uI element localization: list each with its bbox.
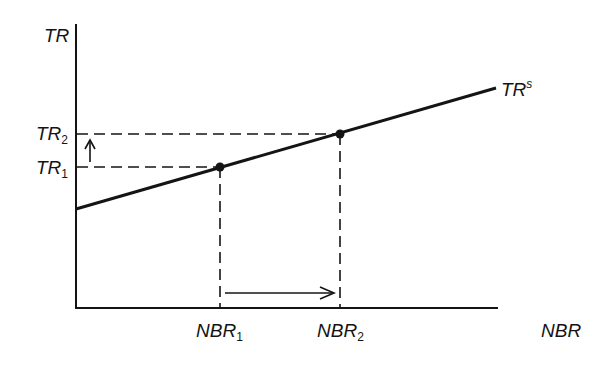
- tr1-label-main: TR: [36, 157, 61, 178]
- x-axis-label-text: NBR: [541, 320, 581, 341]
- y-axis-label-text: TR: [44, 25, 69, 46]
- nbr2-label-sub: 2: [357, 330, 364, 344]
- trs-label-sup: s: [526, 77, 532, 91]
- nbr2-label-main: NBR: [317, 320, 357, 341]
- nbr1-label-main: NBR: [196, 320, 236, 341]
- supply-diagram: [0, 0, 614, 368]
- trs-curve-label: TRs: [501, 78, 532, 99]
- nbr2-label: NBR2: [317, 321, 364, 343]
- point-2-marker: [336, 130, 345, 139]
- y-axis-label: TR: [44, 26, 69, 45]
- right-arrow-icon: [225, 287, 334, 299]
- tr2-label-sub: 2: [61, 133, 68, 147]
- tr2-label: TR2: [36, 124, 68, 146]
- nbr1-label-sub: 1: [236, 330, 243, 344]
- x-axis-label: NBR: [541, 321, 581, 340]
- trs-supply-line: [76, 88, 496, 209]
- tr1-label: TR1: [36, 158, 68, 180]
- tr1-label-sub: 1: [61, 167, 68, 181]
- tr2-label-main: TR: [36, 123, 61, 144]
- point-1-marker: [216, 163, 225, 172]
- up-arrow-icon: [85, 140, 95, 162]
- nbr1-label: NBR1: [196, 321, 243, 343]
- trs-label-main: TR: [501, 79, 526, 100]
